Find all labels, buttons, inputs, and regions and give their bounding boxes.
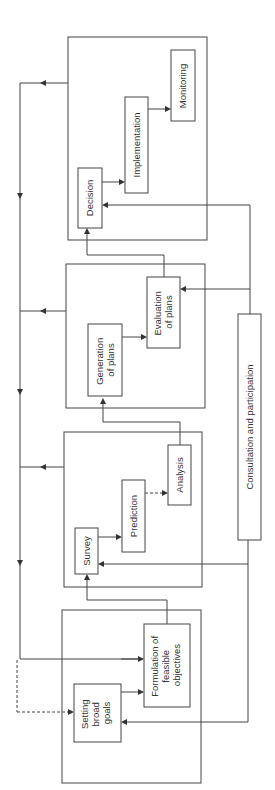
arrow-right-icon xyxy=(116,534,122,540)
svg-text:Monitoring: Monitoring xyxy=(177,64,188,108)
box-implementation: Implementation xyxy=(125,97,148,193)
svg-text:Survey: Survey xyxy=(81,536,92,566)
arrow-left-icon xyxy=(102,202,108,208)
arrow-right-icon xyxy=(138,689,144,695)
box-evaluation: Evaluation of plans xyxy=(147,277,180,348)
arrow-up-icon xyxy=(84,574,90,580)
planning-process-diagram: Setting broad goals Formulation of feasi… xyxy=(0,0,275,790)
arrow-left-icon xyxy=(40,80,46,86)
arrow-left-icon xyxy=(98,561,104,567)
arrow-up-icon xyxy=(100,398,106,404)
stage-frame-plans xyxy=(66,264,205,408)
svg-text:Decision: Decision xyxy=(84,180,95,216)
arrow-left-icon xyxy=(121,719,127,725)
arrow-down-icon xyxy=(17,389,23,395)
arrow-right-icon xyxy=(138,656,144,662)
arrow-down-icon xyxy=(17,193,23,199)
arrow-right-icon xyxy=(165,106,171,112)
svg-text:Consultation and participation: Consultation and participation xyxy=(244,364,255,489)
arrow-right-icon xyxy=(119,179,125,185)
svg-text:Analysis: Analysis xyxy=(174,457,185,493)
box-formulation: Formulation of feasible objectives xyxy=(144,624,190,707)
svg-text:Prediction: Prediction xyxy=(128,495,139,537)
box-monitoring: Monitoring xyxy=(171,50,195,121)
arrow-right-icon xyxy=(68,709,74,715)
box-decision: Decision xyxy=(78,168,102,228)
arrow-right-icon xyxy=(141,334,147,340)
arrow-left-icon xyxy=(180,286,186,292)
svg-text:Setting broad goal: Setting broad goals xyxy=(79,697,112,729)
arrow-up-icon xyxy=(84,228,90,234)
arrow-down-icon xyxy=(17,560,23,566)
box-analysis: Analysis xyxy=(168,445,191,505)
box-prediction: Prediction xyxy=(122,480,145,552)
box-survey: Survey xyxy=(75,528,98,574)
box-generation: Generation of plans xyxy=(88,324,122,396)
arrow-right-icon xyxy=(162,490,168,496)
svg-text:Implementation: Implementation xyxy=(131,113,142,178)
arrow-left-icon xyxy=(40,308,46,314)
svg-text:Evaluation of plans: Evaluation of plans xyxy=(152,288,174,335)
box-setting-goals: Setting broad goals xyxy=(74,684,121,742)
box-consultation: Consultation and participation xyxy=(238,314,261,540)
arrow-left-icon xyxy=(40,464,46,470)
